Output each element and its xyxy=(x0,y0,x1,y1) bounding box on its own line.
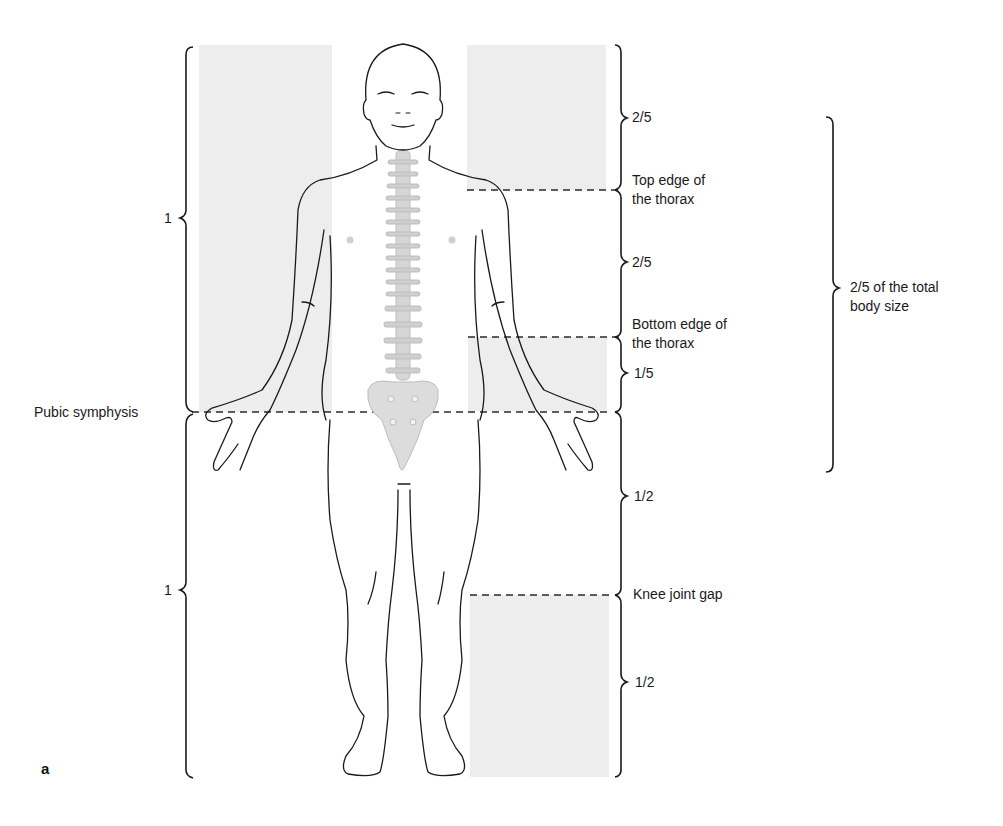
outer-bracket-label-2: body size xyxy=(850,298,909,315)
fraction-abdomen: 1/5 xyxy=(634,365,653,382)
figure-svg xyxy=(0,0,1003,826)
bottom-thorax-label-1: Bottom edge of xyxy=(632,316,727,333)
body-proportions-figure: 1 1 Pubic symphysis 2/5 Top edge of the … xyxy=(0,0,1003,826)
left-brackets xyxy=(180,47,193,778)
pubic-symphysis-label: Pubic symphysis xyxy=(34,404,138,421)
bracket-lower-1 xyxy=(180,414,193,778)
fraction-head: 2/5 xyxy=(632,109,651,126)
pelvis xyxy=(368,381,438,470)
head xyxy=(363,44,442,150)
bracket-label-lower: 1 xyxy=(164,582,172,599)
torso-right xyxy=(429,146,598,470)
top-thorax-label-2: the thorax xyxy=(632,191,694,208)
bracket-label-upper: 1 xyxy=(164,210,172,227)
leg-left xyxy=(328,420,398,776)
knee-joint-label: Knee joint gap xyxy=(633,586,723,603)
leg-right xyxy=(410,420,480,776)
fraction-thigh: 1/2 xyxy=(634,488,653,505)
outer-bracket xyxy=(826,117,839,472)
fraction-lower-leg: 1/2 xyxy=(635,674,654,691)
top-thorax-label-1: Top edge of xyxy=(632,172,705,189)
outer-bracket-label-1: 2/5 of the total xyxy=(850,279,939,296)
shade-left-upper xyxy=(199,45,332,412)
bracket-upper-1 xyxy=(180,47,193,412)
panel-letter: a xyxy=(41,760,49,777)
shade-right-head xyxy=(467,45,606,190)
right-brackets xyxy=(615,45,839,777)
shade-right-pelvis xyxy=(468,337,607,411)
skeleton-spine xyxy=(368,150,438,470)
fraction-thorax: 2/5 xyxy=(632,254,651,271)
bottom-thorax-label-2: the thorax xyxy=(632,335,694,352)
shade-right-lower-leg xyxy=(470,595,609,777)
